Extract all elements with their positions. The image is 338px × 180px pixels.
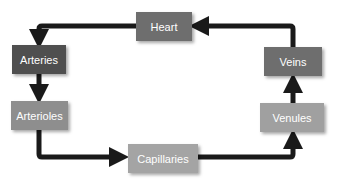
arrow-heart-to-arteries xyxy=(39,26,136,40)
node-venules: Venules xyxy=(260,103,324,132)
node-heart: Heart xyxy=(136,12,192,41)
node-venules-label: Venules xyxy=(272,112,311,124)
arrow-arterioles-to-capillaries xyxy=(39,130,120,157)
node-arteries: Arteries xyxy=(12,45,66,74)
node-heart-label: Heart xyxy=(151,21,178,33)
arrow-veins-to-heart xyxy=(198,26,293,47)
node-veins-label: Veins xyxy=(280,56,307,68)
node-capillaries: Capillaries xyxy=(128,144,198,173)
node-arteries-label: Arteries xyxy=(20,54,58,66)
node-veins: Veins xyxy=(264,47,322,76)
node-arterioles: Arterioles xyxy=(11,101,68,130)
node-arterioles-label: Arterioles xyxy=(16,110,62,122)
node-capillaries-label: Capillaries xyxy=(137,153,188,165)
arrow-capillaries-to-venules xyxy=(198,138,293,157)
